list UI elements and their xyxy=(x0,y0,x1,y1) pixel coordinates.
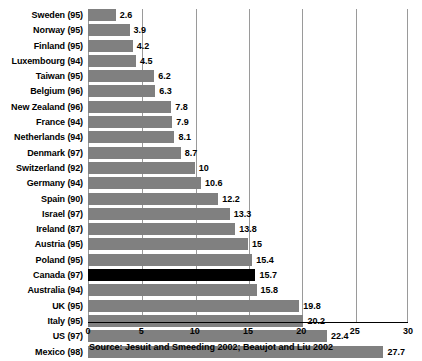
x-tick-label: 0 xyxy=(85,325,90,338)
bar xyxy=(88,238,248,250)
category-label: Belgium (96) xyxy=(0,85,83,97)
bar-row: Germany (94)10.6 xyxy=(0,177,422,192)
category-label: Israel (97) xyxy=(0,208,83,220)
bar-value-label: 6.3 xyxy=(155,85,172,97)
bar-track: 2.6 xyxy=(88,9,408,21)
bar xyxy=(88,177,201,189)
category-label: Ireland (87) xyxy=(0,223,83,235)
bar-value-label: 15.7 xyxy=(255,269,277,281)
category-label: Denmark (97) xyxy=(0,147,83,159)
category-label: Germany (94) xyxy=(0,177,83,189)
bar-value-label: 6.2 xyxy=(154,70,171,82)
bar-row: Denmark (97)8.7 xyxy=(0,147,422,162)
x-tick-label: 5 xyxy=(139,325,144,338)
bar-value-label: 15.8 xyxy=(257,284,279,296)
bar-row: Sweden (95)2.6 xyxy=(0,9,422,24)
x-axis-line xyxy=(88,322,408,323)
bar xyxy=(88,208,230,220)
source-note: Source: Jesuit and Smeeding 2002; Beaujo… xyxy=(0,341,422,353)
bar-row: Switzerland (92)10 xyxy=(0,162,422,177)
bar xyxy=(88,147,181,159)
category-label: Austria (95) xyxy=(0,238,83,250)
bar-value-label: 7.9 xyxy=(172,116,189,128)
bar-track: 8.7 xyxy=(88,147,408,159)
category-label: Finland (95) xyxy=(0,40,83,52)
bar-value-label: 19.8 xyxy=(299,300,321,312)
bar-value-label: 8.1 xyxy=(174,131,191,143)
x-tick-label: 30 xyxy=(403,325,413,338)
bar-track: 10 xyxy=(88,162,408,174)
bar-row: France (94)7.9 xyxy=(0,116,422,131)
bar-value-label: 10.6 xyxy=(201,177,223,189)
bar xyxy=(88,300,299,312)
bar-track: 12.2 xyxy=(88,193,408,205)
bar-track: 4.2 xyxy=(88,40,408,52)
bar-value-label: 4.5 xyxy=(136,55,153,67)
bar-row: New Zealand (96)7.8 xyxy=(0,101,422,116)
bar xyxy=(88,254,252,266)
bar-row: Poland (95)15.4 xyxy=(0,254,422,269)
bar-value-label: 7.8 xyxy=(171,101,188,113)
bar-value-label: 13.3 xyxy=(230,208,252,220)
bar-track: 6.2 xyxy=(88,70,408,82)
bar-track: 15.8 xyxy=(88,284,408,296)
bar xyxy=(88,223,235,235)
bar-track: 7.9 xyxy=(88,116,408,128)
category-label: Netherlands (94) xyxy=(0,131,83,143)
category-label: Sweden (95) xyxy=(0,9,83,21)
bar-value-label: 2.6 xyxy=(116,9,133,21)
bar-row: Taiwan (95)6.2 xyxy=(0,70,422,85)
bar-value-label: 13.8 xyxy=(235,223,257,235)
bar-track: 7.8 xyxy=(88,101,408,113)
category-label: Canada (97) xyxy=(0,269,83,281)
bar xyxy=(88,162,195,174)
bar-track: 13.8 xyxy=(88,223,408,235)
category-label: Switzerland (92) xyxy=(0,162,83,174)
bar xyxy=(88,40,133,52)
category-label: Australia (94) xyxy=(0,284,83,296)
bar-value-label: 15 xyxy=(248,238,262,250)
bar-row: Spain (90)12.2 xyxy=(0,193,422,208)
bar-track: 15.7 xyxy=(88,269,408,281)
bar-value-label: 15.4 xyxy=(252,254,274,266)
category-label: Taiwan (95) xyxy=(0,70,83,82)
category-label: Italy (95) xyxy=(0,315,83,327)
x-tick-label: 20 xyxy=(296,325,306,338)
bar xyxy=(88,116,172,128)
bar-highlighted xyxy=(88,269,255,281)
category-label: Luxembourg (94) xyxy=(0,55,83,67)
category-label: Spain (90) xyxy=(0,193,83,205)
bar-track: 8.1 xyxy=(88,131,408,143)
bar-row: Canada (97)15.7 xyxy=(0,269,422,284)
bar-row: Luxembourg (94)4.5 xyxy=(0,55,422,70)
bar-track: 3.9 xyxy=(88,24,408,36)
bar xyxy=(88,24,130,36)
bar xyxy=(88,55,136,67)
bar-track: 13.3 xyxy=(88,208,408,220)
bar-track: 10.6 xyxy=(88,177,408,189)
bar xyxy=(88,9,116,21)
bar-row: Netherlands (94)8.1 xyxy=(0,131,422,146)
bar-row: Belgium (96)6.3 xyxy=(0,85,422,100)
bar-rows: Sweden (95)2.6Norway (95)3.9Finland (95)… xyxy=(0,9,422,361)
category-label: Poland (95) xyxy=(0,254,83,266)
category-label: Norway (95) xyxy=(0,24,83,36)
x-tick-label: 25 xyxy=(350,325,360,338)
bar-value-label: 4.2 xyxy=(133,40,150,52)
bar-value-label: 10 xyxy=(195,162,209,174)
category-label: New Zealand (96) xyxy=(0,101,83,113)
bar-value-label: 3.9 xyxy=(130,24,147,36)
bar-row: Ireland (87)13.8 xyxy=(0,223,422,238)
category-label: France (94) xyxy=(0,116,83,128)
bar-track: 15 xyxy=(88,238,408,250)
bar xyxy=(88,70,154,82)
x-tick-label: 10 xyxy=(190,325,200,338)
bar-row: Israel (97)13.3 xyxy=(0,208,422,223)
bar xyxy=(88,101,171,113)
bar xyxy=(88,85,155,97)
bar-row: Austria (95)15 xyxy=(0,238,422,253)
bar-track: 6.3 xyxy=(88,85,408,97)
bar-row: UK (95)19.8 xyxy=(0,300,422,315)
x-axis-tick-labels: 051015202530 xyxy=(88,325,408,339)
